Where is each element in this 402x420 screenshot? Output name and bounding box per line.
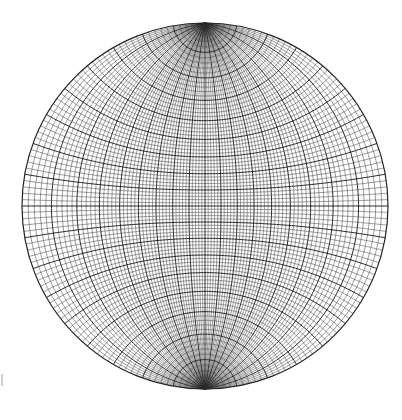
edge-mark — [1, 374, 3, 386]
stereonet-diagram — [0, 0, 402, 420]
